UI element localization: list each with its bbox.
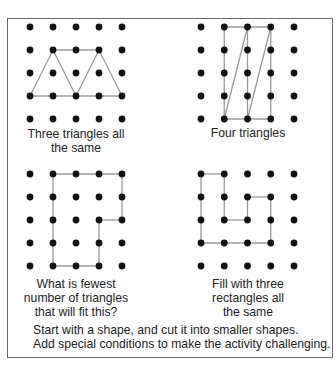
grid-dot [291, 116, 298, 123]
grid-dot [73, 240, 80, 247]
grid-dot [27, 47, 34, 54]
caption-three-rectangles: Fill with three rectangles all the same [188, 277, 308, 319]
grid-dot [50, 194, 57, 201]
grid-dot [119, 194, 126, 201]
grid-dot [244, 263, 251, 270]
grid-dot [221, 217, 228, 224]
caption-line: Fill with three [188, 277, 308, 291]
grid-dot [96, 24, 103, 31]
grid-dot [244, 70, 251, 77]
grid-dot [119, 93, 126, 100]
grid-dot [267, 24, 274, 31]
caption-line: number of triangles [11, 291, 141, 305]
grid-dot [50, 24, 57, 31]
grid-dot [291, 93, 298, 100]
grid-dot [27, 194, 34, 201]
grid-dot [73, 171, 80, 178]
grid-dot [198, 194, 205, 201]
grid-dot [267, 240, 274, 247]
grid-dot [73, 116, 80, 123]
grid-dot [198, 116, 205, 123]
grid-dot [96, 70, 103, 77]
grid-dot [267, 116, 274, 123]
grid-dot [267, 194, 274, 201]
grid-dot [244, 47, 251, 54]
grid-dot [73, 24, 80, 31]
caption-four-triangles: Four triangles [188, 126, 308, 140]
grid-dot [198, 240, 205, 247]
grid-dot [198, 24, 205, 31]
grid-dot [198, 93, 205, 100]
grid-dot [244, 217, 251, 224]
grid-dot [198, 217, 205, 224]
grid-dot [221, 24, 228, 31]
grid-dot [267, 263, 274, 270]
grid-dot [96, 116, 103, 123]
grid-dot [119, 171, 126, 178]
grid-dot [267, 93, 274, 100]
grid-dot [267, 171, 274, 178]
grid-dot [73, 70, 80, 77]
caption-line: the same [188, 305, 308, 319]
grid-dot [119, 24, 126, 31]
instruction-line: Add special conditions to make the activ… [33, 337, 330, 351]
caption-fewest-triangles: What is fewest number of triangles that … [11, 277, 141, 319]
caption-three-triangles: Three triangles all the same [16, 127, 136, 155]
grid-dot [244, 194, 251, 201]
grid-dot [50, 171, 57, 178]
grid-dot [73, 263, 80, 270]
instruction-line: Start with a shape, and cut it into smal… [33, 323, 330, 337]
grid-dot [244, 24, 251, 31]
grid-dot [291, 47, 298, 54]
grid-dot [198, 70, 205, 77]
grid-dot [119, 217, 126, 224]
grid-dot [244, 93, 251, 100]
grid-dot [27, 70, 34, 77]
panel-three-rectangles [198, 171, 298, 270]
grid-dot [27, 93, 34, 100]
grid-dot [96, 240, 103, 247]
grid-dot [291, 70, 298, 77]
grid-dot [27, 171, 34, 178]
grid-dot [221, 116, 228, 123]
shape-edge [99, 50, 122, 96]
grid-dot [291, 171, 298, 178]
grid-dot [267, 70, 274, 77]
grid-dot [221, 171, 228, 178]
grid-dot [291, 263, 298, 270]
caption-line: that will fit this? [11, 305, 141, 319]
caption-line: What is fewest [11, 277, 141, 291]
grid-dot [119, 240, 126, 247]
grid-dot [96, 263, 103, 270]
grid-dot [50, 263, 57, 270]
grid-dot [291, 24, 298, 31]
grid-dot [50, 240, 57, 247]
shape-edge [224, 27, 247, 119]
grid-dot [221, 263, 228, 270]
caption-line: Four triangles [188, 126, 308, 140]
panel-four-triangles [198, 24, 298, 123]
shape-edge [248, 27, 271, 119]
grid-dot [96, 171, 103, 178]
grid-dot [221, 70, 228, 77]
caption-line: Three triangles all [16, 127, 136, 141]
panel-fewest-triangles [27, 171, 126, 270]
instructions: Start with a shape, and cut it into smal… [33, 323, 330, 351]
grid-dot [27, 263, 34, 270]
grid-dot [27, 24, 34, 31]
grid-dot [244, 171, 251, 178]
grid-dot [119, 70, 126, 77]
grid-dot [50, 70, 57, 77]
grid-dot [73, 194, 80, 201]
grid-dot [198, 47, 205, 54]
grid-dot [50, 116, 57, 123]
panel-three-triangles [27, 24, 126, 123]
grid-dot [96, 93, 103, 100]
caption-line: the same [16, 141, 136, 155]
grid-dot [27, 240, 34, 247]
grid-dot [50, 217, 57, 224]
grid-dot [244, 240, 251, 247]
grid-dot [267, 47, 274, 54]
shape-edge [76, 50, 99, 96]
grid-dot [96, 194, 103, 201]
